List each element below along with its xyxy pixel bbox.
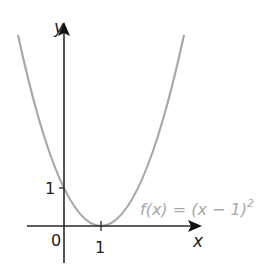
x-axis-label: x	[192, 231, 204, 251]
function-label: f(x) = (x − 1)2	[140, 197, 254, 219]
origin-label: 0	[51, 231, 61, 250]
x-tick-label: 1	[95, 238, 105, 257]
parabola-curve	[18, 35, 184, 226]
y-axis-label: y	[53, 17, 65, 37]
function-graph: y x 0 1 1 f(x) = (x − 1)2	[0, 0, 259, 275]
function-label-exponent: 2	[247, 197, 254, 210]
y-tick-label: 1	[45, 179, 55, 198]
function-label-main: f(x) = (x − 1)	[140, 200, 247, 219]
